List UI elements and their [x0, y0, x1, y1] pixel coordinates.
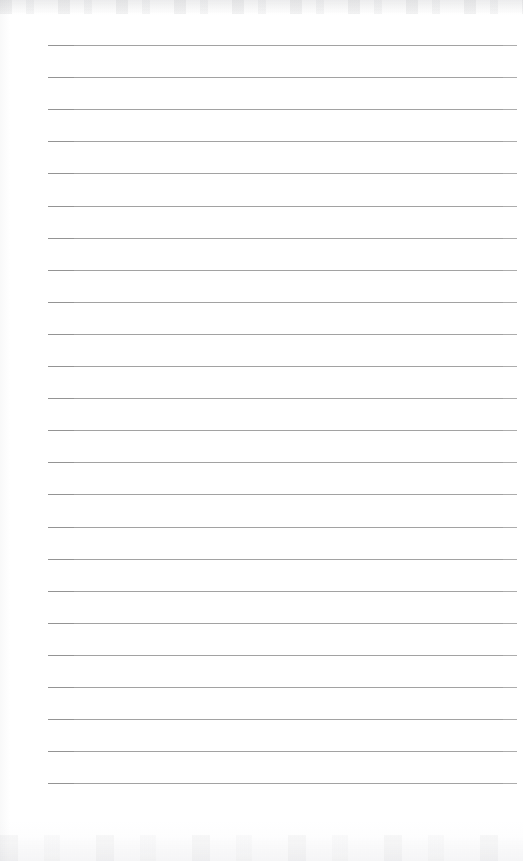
scanned-page [0, 0, 523, 861]
writing-area[interactable] [48, 20, 517, 820]
